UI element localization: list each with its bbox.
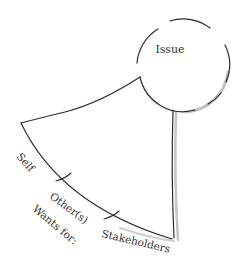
issue-circle-shadow: [186, 72, 228, 112]
fan-right-edge: [172, 110, 174, 238]
issue-arc-2: [170, 19, 210, 28]
issue-label: Issue: [155, 43, 184, 56]
fan-top-edge: [21, 77, 140, 123]
fan-right-shadow: [175, 112, 178, 240]
diagram-svg: Issue Self Other(s) Wants for: Stakehold…: [0, 0, 246, 269]
issue-circle: [137, 19, 230, 112]
diagram-canvas: Issue Self Other(s) Wants for: Stakehold…: [0, 0, 246, 269]
issue-arc-5: [140, 77, 195, 112]
segment-label-self: Self: [15, 150, 38, 174]
segment-label-stakeholders: Stakeholders: [101, 227, 172, 254]
